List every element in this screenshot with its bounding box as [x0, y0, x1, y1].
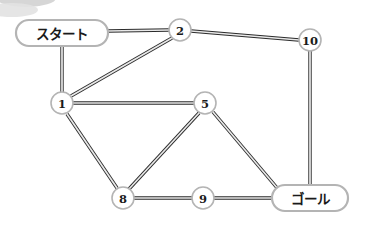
edge-fill-n2-n10: [191, 31, 299, 40]
node-n9[interactable]: 9: [192, 187, 214, 209]
edge-fill-n5-goal: [213, 112, 278, 189]
node-label-n1: 1: [58, 97, 66, 111]
node-n1[interactable]: 1: [51, 92, 73, 114]
node-n8[interactable]: 8: [112, 187, 134, 209]
edge-layer-outer: [62, 30, 310, 198]
node-label-n2: 2: [176, 24, 184, 38]
edge-layer-inner: [62, 30, 310, 198]
node-n10[interactable]: 10: [299, 29, 321, 51]
edge-fill-n5-n8: [129, 113, 199, 189]
node-label-n5: 5: [201, 97, 209, 111]
node-label-n9: 9: [199, 192, 207, 206]
scan-artifact-top-left: [0, 0, 56, 17]
node-label-n8: 8: [119, 192, 127, 206]
edge-fill-start-n2: [108, 30, 169, 31]
node-n5[interactable]: 5: [194, 92, 216, 114]
node-goal[interactable]: ゴール: [272, 185, 348, 211]
node-label-goal: ゴール: [291, 191, 331, 207]
diagram-canvas: スタート2101589ゴール: [0, 0, 370, 225]
node-start[interactable]: スタート: [16, 20, 108, 46]
edge-fill-n1-n8: [67, 114, 117, 188]
node-label-start: スタート: [36, 26, 88, 42]
node-label-n10: 10: [302, 34, 318, 48]
node-n2[interactable]: 2: [169, 19, 191, 41]
graph-diagram: スタート2101589ゴール: [0, 0, 370, 225]
